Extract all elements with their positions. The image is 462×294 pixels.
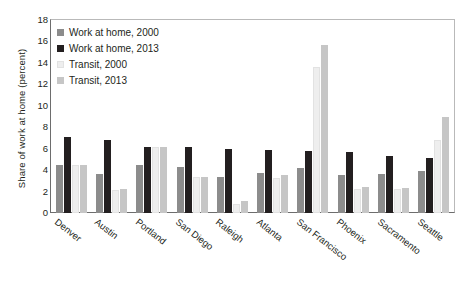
bar bbox=[305, 151, 312, 213]
bar bbox=[104, 140, 111, 213]
bar bbox=[394, 189, 401, 213]
y-axis-ticks: 024681012141618 bbox=[0, 0, 48, 294]
legend-item: Transit, 2000 bbox=[57, 58, 159, 71]
x-tick-label: Sacramento bbox=[375, 217, 422, 256]
bar bbox=[241, 201, 248, 213]
legend-item: Transit, 2013 bbox=[57, 74, 159, 87]
bar bbox=[185, 147, 192, 213]
bar bbox=[56, 165, 63, 213]
x-tick-label: Denver bbox=[53, 217, 83, 244]
bar bbox=[321, 45, 328, 213]
y-tick-label: 8 bbox=[4, 122, 48, 132]
bar bbox=[112, 190, 119, 213]
bar-group bbox=[373, 20, 413, 213]
chart-legend: Work at home, 2000Work at home, 2013Tran… bbox=[57, 26, 159, 87]
bar bbox=[281, 175, 288, 213]
legend-swatch-icon bbox=[57, 45, 64, 52]
bar bbox=[362, 187, 369, 213]
legend-swatch-icon bbox=[57, 77, 64, 84]
bar bbox=[225, 149, 232, 213]
legend-label: Work at home, 2000 bbox=[69, 27, 159, 38]
y-tick-label: 6 bbox=[4, 144, 48, 154]
bar bbox=[257, 173, 264, 213]
bar bbox=[354, 189, 361, 213]
bar-group bbox=[172, 20, 212, 213]
x-tick-label: San Diego bbox=[174, 217, 215, 252]
x-tick-label: Austin bbox=[93, 217, 120, 241]
legend-item: Work at home, 2000 bbox=[57, 26, 159, 39]
bar bbox=[265, 150, 272, 213]
y-tick-label: 16 bbox=[4, 37, 48, 47]
bar bbox=[273, 178, 280, 213]
y-tick-label: 14 bbox=[4, 58, 48, 68]
bar bbox=[152, 147, 159, 213]
bar bbox=[386, 156, 393, 213]
y-tick-label: 2 bbox=[4, 187, 48, 197]
legend-swatch-icon bbox=[57, 61, 64, 68]
legend-swatch-icon bbox=[57, 29, 64, 36]
bar bbox=[144, 147, 151, 213]
legend-label: Work at home, 2013 bbox=[69, 43, 159, 54]
bar bbox=[201, 177, 208, 213]
bar bbox=[120, 189, 127, 213]
bar bbox=[96, 174, 103, 213]
bar-group bbox=[414, 20, 454, 213]
x-tick-label: Seattle bbox=[416, 217, 445, 243]
bar-group bbox=[333, 20, 373, 213]
bar bbox=[346, 152, 353, 213]
y-tick-label: 4 bbox=[4, 165, 48, 175]
bar bbox=[160, 147, 167, 213]
bar bbox=[64, 137, 71, 213]
bar bbox=[402, 188, 409, 213]
bar-group bbox=[212, 20, 252, 213]
bar bbox=[313, 67, 320, 213]
bar bbox=[442, 117, 449, 214]
y-tick-label: 10 bbox=[4, 101, 48, 111]
x-tick-label: Raleigh bbox=[214, 217, 246, 245]
x-tick-label: Portland bbox=[134, 217, 168, 247]
y-tick-label: 12 bbox=[4, 80, 48, 90]
bar bbox=[233, 204, 240, 213]
bar bbox=[434, 140, 441, 213]
bar-group bbox=[293, 20, 333, 213]
bar bbox=[193, 177, 200, 213]
bar bbox=[426, 158, 433, 213]
bar bbox=[338, 175, 345, 213]
bar bbox=[177, 167, 184, 213]
x-tick-label: Phoenix bbox=[335, 217, 368, 246]
bar bbox=[418, 171, 425, 213]
bar bbox=[297, 168, 304, 213]
legend-label: Transit, 2013 bbox=[69, 75, 127, 86]
legend-item: Work at home, 2013 bbox=[57, 42, 159, 55]
x-tick-label: Atlanta bbox=[254, 217, 283, 243]
bar bbox=[80, 165, 87, 213]
bar bbox=[72, 165, 79, 213]
bar-group bbox=[253, 20, 293, 213]
y-tick-label: 0 bbox=[4, 208, 48, 218]
bar-chart: Share of work at home (percent) 02468101… bbox=[0, 0, 462, 294]
bar bbox=[136, 165, 143, 213]
legend-label: Transit, 2000 bbox=[69, 59, 127, 70]
bar bbox=[378, 174, 385, 213]
bar bbox=[217, 177, 224, 213]
y-tick-label: 18 bbox=[4, 15, 48, 25]
